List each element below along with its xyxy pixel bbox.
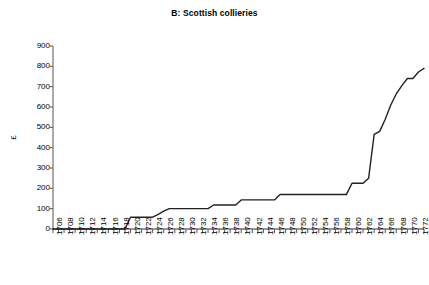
chart-container: B: Scottish collieries £ 010020030040050…	[0, 0, 429, 285]
data-series-line	[53, 68, 424, 229]
y-axis-tick-marks	[50, 46, 54, 229]
plot-area	[0, 0, 429, 285]
